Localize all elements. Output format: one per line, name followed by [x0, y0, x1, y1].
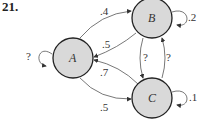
edge-label-a-a: ? — [26, 50, 31, 62]
node-c-label: C — [148, 91, 157, 105]
edge-label-b-a: .5 — [102, 38, 111, 50]
edge-label-c-c: .1 — [189, 91, 197, 103]
edge-c-to-b — [162, 38, 165, 78]
edge-a-to-c — [80, 78, 131, 99]
edge-label-b-b: .2 — [188, 11, 196, 23]
edge-label-c-a: .7 — [100, 66, 109, 78]
problem-number: 21. — [2, 0, 18, 14]
node-a-label: A — [68, 51, 77, 65]
edge-label-c-b: ? — [166, 51, 171, 63]
node-b: B — [132, 0, 172, 38]
self-loop-b — [172, 11, 187, 25]
node-c: C — [132, 78, 172, 118]
edge-label-b-c: ? — [143, 51, 148, 63]
node-b-label: B — [148, 11, 156, 25]
self-loop-a — [39, 51, 52, 66]
edge-label-a-c: .5 — [100, 101, 109, 113]
state-diagram: 21. A B C .4 .5 .7 .5 ? .2 ? ? .1 — [0, 0, 201, 125]
node-a: A — [53, 38, 93, 78]
self-loop-c — [172, 91, 187, 105]
edge-b-to-a — [94, 33, 136, 57]
edge-label-a-b: .4 — [100, 5, 109, 17]
